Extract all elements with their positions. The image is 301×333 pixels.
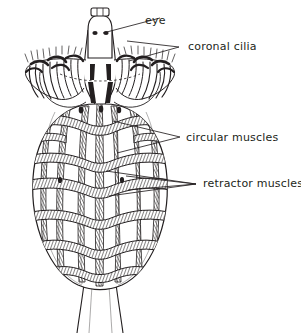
organism-drawing — [25, 8, 175, 333]
label-circular-muscles: circular muscles — [186, 131, 279, 144]
label-coronal-cilia: coronal cilia — [188, 40, 257, 53]
rotifer-anatomy-figure: eye coronal cilia circular muscles retra… — [0, 0, 301, 333]
foot — [77, 284, 123, 333]
head-cap — [91, 8, 109, 16]
label-group: eye coronal cilia circular muscles retra… — [145, 14, 301, 190]
label-eye: eye — [145, 14, 166, 27]
buccal-structures — [88, 64, 113, 103]
eye-spot-left — [92, 31, 97, 35]
label-retractor-muscles: retractor muscles — [203, 177, 301, 190]
diagram-canvas: eye coronal cilia circular muscles retra… — [0, 0, 301, 333]
